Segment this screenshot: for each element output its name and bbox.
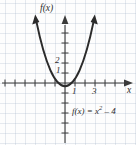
y-axis-label: f(x) [40, 4, 53, 14]
equation-label-main: f(x) = x [72, 106, 99, 116]
x-axis-label: x [127, 86, 131, 96]
equation-label-tail: – 4 [102, 106, 116, 116]
graph-figure: f(x) x 2 1 1 3 f(x) = x2 – 4 [0, 0, 136, 145]
y-axis [62, 15, 69, 143]
x-tick-label-1: 1 [72, 87, 77, 96]
curve-right-arrowhead [91, 15, 98, 25]
x-tick-label-3: 3 [92, 87, 97, 96]
y-tick-label-2: 2 [55, 56, 60, 65]
curve-left-arrowhead [32, 15, 39, 25]
y-tick-label-1: 1 [56, 66, 61, 75]
coordinate-plane [0, 0, 136, 145]
equation-label: f(x) = x2 – 4 [72, 107, 116, 116]
